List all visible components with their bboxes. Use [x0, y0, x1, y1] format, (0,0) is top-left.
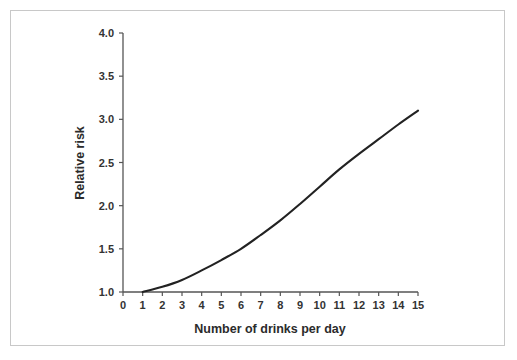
y-tick-label: 1.0 — [99, 286, 114, 298]
x-tick-label: 2 — [159, 299, 165, 311]
x-tick-label: 8 — [277, 299, 283, 311]
x-tick-label: 5 — [218, 299, 224, 311]
x-tick-label: 7 — [258, 299, 264, 311]
x-tick-label: 11 — [334, 299, 346, 311]
x-axis-title: Number of drinks per day — [194, 322, 345, 336]
y-axis-tick-labels: 1.01.52.02.53.03.54.0 — [99, 27, 114, 298]
x-tick-label: 13 — [373, 299, 385, 311]
y-axis-title: Relative risk — [73, 126, 87, 200]
x-tick-label: 10 — [314, 299, 326, 311]
x-tick-label: 12 — [353, 299, 365, 311]
x-tick-label: 3 — [179, 299, 185, 311]
y-tick-label: 1.5 — [99, 243, 114, 255]
x-tick-label: 14 — [392, 299, 405, 311]
data-series-line — [143, 111, 418, 292]
y-tick-label: 3.0 — [99, 113, 114, 125]
x-tick-label: 4 — [199, 299, 206, 311]
x-tick-label: 6 — [238, 299, 244, 311]
x-tick-label: 1 — [140, 299, 146, 311]
figure-container: 1.01.52.02.53.03.54.0 012345678910111213… — [0, 0, 517, 360]
y-tick-label: 2.5 — [99, 157, 114, 169]
line-chart: 1.01.52.02.53.03.54.0 012345678910111213… — [0, 0, 517, 360]
x-tick-label: 15 — [412, 299, 424, 311]
y-tick-label: 3.5 — [99, 70, 114, 82]
x-tick-label: 0 — [120, 299, 126, 311]
x-axis-tick-labels: 0123456789101112131415 — [120, 299, 424, 311]
y-tick-label: 4.0 — [99, 27, 114, 39]
y-tick-label: 2.0 — [99, 200, 114, 212]
x-tick-label: 9 — [297, 299, 303, 311]
